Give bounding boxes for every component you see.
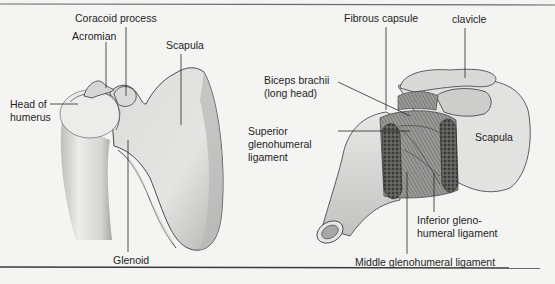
glenoid-rim-left bbox=[382, 124, 402, 199]
label-superior-line1: Superior bbox=[248, 125, 288, 137]
label-fibrous-capsule: Fibrous capsule bbox=[344, 12, 418, 24]
shoulder-anatomy-figure: Coracoid process Acromian Scapula Head o… bbox=[0, 0, 555, 284]
label-middle-glenohumeral: Middle glenohumeral ligament bbox=[355, 256, 495, 268]
label-glenoid: Glenoid bbox=[113, 254, 149, 266]
label-scapula-right: Scapula bbox=[475, 131, 513, 143]
label-coracoid-process: Coracoid process bbox=[75, 12, 157, 24]
label-head-of-humerus-line2: humerus bbox=[10, 111, 51, 123]
left-shoulder-illustration bbox=[60, 68, 223, 250]
label-inferior-line1: Inferior gleno- bbox=[417, 214, 482, 226]
top-rule bbox=[0, 4, 555, 5]
label-head-of-humerus-line1: Head of bbox=[10, 98, 47, 110]
glenoid-rim-right bbox=[440, 119, 458, 192]
label-inferior-line2: humeral ligament bbox=[417, 227, 498, 239]
label-biceps-line1: Biceps brachii bbox=[264, 74, 329, 86]
label-clavicle: clavicle bbox=[452, 13, 486, 25]
label-superior-line3: ligament bbox=[248, 151, 288, 163]
label-superior-line2: glenohumeral bbox=[248, 138, 312, 150]
label-biceps-line2: (long head) bbox=[264, 87, 317, 99]
label-scapula-left: Scapula bbox=[166, 39, 204, 51]
coracoid-shape bbox=[114, 87, 136, 107]
label-acromian: Acromian bbox=[72, 30, 116, 42]
